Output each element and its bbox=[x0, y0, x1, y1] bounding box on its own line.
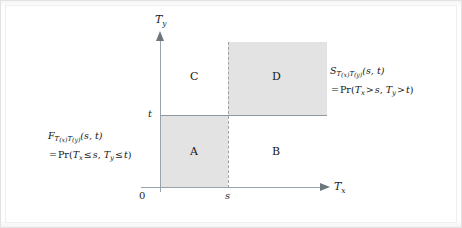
region-label-c: C bbox=[190, 70, 198, 83]
jdf-relation-2: ≤ bbox=[114, 149, 124, 160]
jdf-pr-operator: Pr bbox=[58, 149, 69, 160]
jdf-close-paren: ) bbox=[128, 149, 132, 160]
jdf-equals: = bbox=[48, 149, 58, 160]
figure-container: Ty Tx 0 s t A B C D FT(x)T(y)(s, t) =Pr(… bbox=[0, 0, 462, 228]
joint-survival-function-annotation: ST(x)T(y)(s, t) =Pr(Tx>s, Ty>t) bbox=[330, 66, 413, 97]
jdf-arguments: (s, t) bbox=[80, 130, 102, 141]
jsf-formula-line-2: =Pr(Tx>s, Ty>t) bbox=[330, 85, 413, 97]
x-axis-label: Tx bbox=[334, 180, 346, 195]
tick-label-origin: 0 bbox=[139, 190, 145, 201]
jsf-relation-2: > bbox=[396, 84, 406, 95]
jsf-arguments: (s, t) bbox=[362, 65, 384, 76]
jsf-pr-operator: Pr bbox=[340, 84, 351, 95]
jsf-comma: , bbox=[380, 84, 383, 95]
x-axis-arrowhead-icon bbox=[320, 183, 330, 191]
jdf-subscript: T(x)T(y) bbox=[55, 135, 81, 143]
region-label-d: D bbox=[272, 70, 281, 83]
joint-distribution-function-annotation: FT(x)T(y)(s, t) =Pr(Tx≤s, Ty≤t) bbox=[48, 131, 131, 162]
x-axis-line bbox=[141, 187, 322, 188]
tick-label-t: t bbox=[148, 108, 152, 119]
jsf-relation-1: > bbox=[365, 84, 375, 95]
jsf-formula-line-1: ST(x)T(y)(s, t) bbox=[330, 66, 413, 78]
jsf-subscript: T(x)T(y) bbox=[337, 70, 363, 78]
x-axis-label-subscript: x bbox=[341, 186, 345, 195]
y-axis-arrowhead-icon bbox=[156, 31, 164, 41]
region-label-a: A bbox=[190, 145, 198, 158]
jsf-close-paren: ) bbox=[410, 84, 414, 95]
jdf-function-symbol: F bbox=[48, 130, 55, 141]
horizontal-divider-line-t bbox=[160, 115, 327, 116]
jdf-formula-line-2: =Pr(Tx≤s, Ty≤t) bbox=[48, 150, 131, 162]
y-axis-label-subscript: y bbox=[162, 19, 166, 28]
region-label-b: B bbox=[272, 145, 280, 158]
tick-label-s: s bbox=[225, 190, 230, 201]
y-axis-line bbox=[160, 40, 161, 192]
vertical-dashed-line-s bbox=[228, 42, 229, 188]
jdf-comma: , bbox=[98, 149, 101, 160]
jdf-relation-1: ≤ bbox=[83, 149, 93, 160]
plot-area: Ty Tx 0 s t A B C D FT(x)T(y)(s, t) =Pr(… bbox=[0, 0, 462, 228]
jdf-formula-line-1: FT(x)T(y)(s, t) bbox=[48, 131, 131, 143]
y-axis-label: Ty bbox=[155, 13, 167, 28]
jsf-equals: = bbox=[330, 84, 340, 95]
